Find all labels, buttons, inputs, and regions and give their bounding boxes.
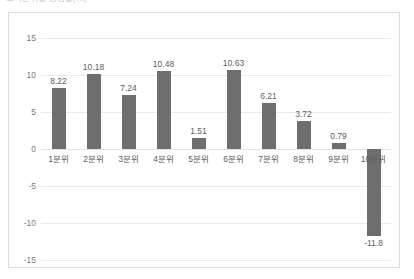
- bar-group[interactable]: 10.182분위: [76, 38, 111, 260]
- chart-title-cropped: 소득분위별 증감률(%): [6, 0, 246, 3]
- y-axis-tick-label: -15: [24, 256, 36, 265]
- bar-group[interactable]: 6.217분위: [251, 38, 286, 260]
- bar[interactable]: [122, 95, 136, 149]
- bar-value-label: 10.48: [153, 60, 174, 69]
- bar-value-label: 6.21: [260, 92, 277, 101]
- bar-value-label: -11.8: [364, 239, 383, 248]
- bar[interactable]: [227, 70, 241, 149]
- x-axis-category-label: 10분위: [361, 155, 386, 164]
- bar-value-label: 10.18: [83, 63, 104, 72]
- bar[interactable]: [332, 143, 346, 149]
- bar-group[interactable]: 7.243분위: [111, 38, 146, 260]
- x-axis-category-label: 5분위: [188, 155, 209, 164]
- bar-value-label: 1.51: [190, 127, 207, 136]
- bar-value-label: 10.63: [223, 59, 244, 68]
- bar-group[interactable]: 8.221분위: [41, 38, 76, 260]
- x-axis-category-label: 1분위: [48, 155, 69, 164]
- chart-frame: 151050-5-10-15 8.221분위10.182분위7.243분위10.…: [8, 12, 400, 268]
- bar[interactable]: [192, 138, 206, 149]
- bar-group[interactable]: -11.810분위: [356, 38, 391, 260]
- x-axis-category-label: 9분위: [328, 155, 349, 164]
- gridline--15: [41, 260, 391, 261]
- plot-area: 151050-5-10-15 8.221분위10.182분위7.243분위10.…: [41, 38, 391, 260]
- y-axis-tick-label: 10: [27, 71, 36, 80]
- bar[interactable]: [87, 74, 101, 149]
- bar-series: 8.221분위10.182분위7.243분위10.484분위1.515분위10.…: [41, 38, 391, 260]
- bar-value-label: 3.72: [295, 110, 312, 119]
- bar[interactable]: [157, 71, 171, 149]
- bar-group[interactable]: 10.636분위: [216, 38, 251, 260]
- x-axis-category-label: 6분위: [223, 155, 244, 164]
- bar-group[interactable]: 3.728분위: [286, 38, 321, 260]
- y-axis-tick-label: 0: [31, 145, 36, 154]
- bar-value-label: 7.24: [120, 84, 137, 93]
- y-axis-tick-label: -5: [28, 182, 36, 191]
- y-axis-tick-label: -10: [24, 219, 36, 228]
- bar-value-label: 8.22: [50, 77, 67, 86]
- bar-value-label: 0.79: [330, 132, 347, 141]
- x-axis-category-label: 3분위: [118, 155, 139, 164]
- y-axis-tick-label: 15: [27, 34, 36, 43]
- bar-group[interactable]: 10.484분위: [146, 38, 181, 260]
- bar-group[interactable]: 1.515분위: [181, 38, 216, 260]
- x-axis-category-label: 7분위: [258, 155, 279, 164]
- y-axis-tick-label: 5: [31, 108, 36, 117]
- bar[interactable]: [297, 121, 311, 149]
- x-axis-category-label: 4분위: [153, 155, 174, 164]
- bar[interactable]: [262, 103, 276, 149]
- x-axis-category-label: 8분위: [293, 155, 314, 164]
- bar[interactable]: [52, 88, 66, 149]
- bar-group[interactable]: 0.799분위: [321, 38, 356, 260]
- x-axis-category-label: 2분위: [83, 155, 104, 164]
